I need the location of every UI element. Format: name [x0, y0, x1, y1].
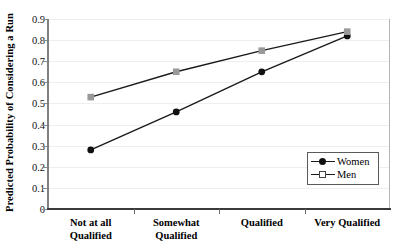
- gridline: [49, 125, 389, 126]
- y-tick-mark: [42, 209, 47, 210]
- filled-circle-marker-icon: [311, 156, 335, 168]
- x-tick-label: Somewhat Qualified: [134, 216, 220, 242]
- y-tick-mark: [42, 146, 47, 147]
- y-axis-line: [47, 19, 49, 209]
- y-tick-mark: [42, 19, 47, 20]
- y-tick-mark: [42, 125, 47, 126]
- gridline: [49, 146, 389, 147]
- gridline: [49, 40, 389, 41]
- legend-item-women: Women: [311, 155, 375, 168]
- x-tick-mark: [219, 209, 220, 214]
- x-tick-mark: [305, 209, 306, 214]
- x-tick-mark: [134, 209, 135, 214]
- gridline: [49, 103, 389, 104]
- gridline: [49, 61, 389, 62]
- y-tick-mark: [42, 103, 47, 104]
- legend-item-men: Men: [311, 168, 375, 181]
- y-tick-mark: [42, 188, 47, 189]
- legend-label-women: Women: [335, 156, 369, 167]
- x-tick-label: Qualified: [219, 216, 305, 229]
- y-tick-mark: [42, 61, 47, 62]
- y-axis-tick-labels: 00.10.20.30.40.50.60.70.80.9: [17, 0, 45, 251]
- open-square-marker-icon: [311, 169, 335, 181]
- gridline: [49, 19, 389, 20]
- x-tick-label: Very Qualified: [305, 216, 391, 229]
- y-tick-mark: [42, 82, 47, 83]
- y-axis-title: Predicted Probability of Considering a R…: [0, 0, 18, 225]
- y-tick-mark: [42, 40, 47, 41]
- y-axis-title-text: Predicted Probability of Considering a R…: [4, 13, 15, 212]
- chart-legend: Women Men: [307, 152, 379, 185]
- gridline: [49, 82, 389, 83]
- legend-label-men: Men: [335, 169, 356, 180]
- chart-figure: Predicted Probability of Considering a R…: [0, 0, 408, 251]
- y-tick-mark: [42, 167, 47, 168]
- x-tick-label: Not at all Qualified: [48, 216, 134, 242]
- gridline: [49, 188, 389, 189]
